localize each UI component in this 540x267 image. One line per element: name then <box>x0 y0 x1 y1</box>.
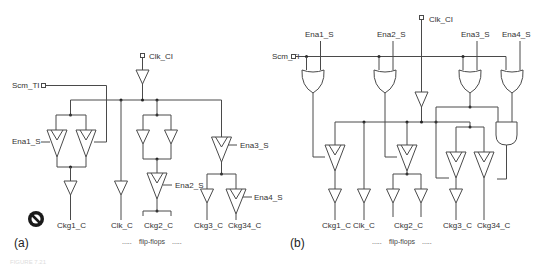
buffer-clk-c-a <box>115 181 128 195</box>
ckg2-c-label-a: Ckg2_C <box>144 221 173 230</box>
clock-gate-1-b <box>325 145 345 171</box>
ena2-s-label-b: Ena2_S <box>377 30 405 39</box>
buffer-clk-c-b <box>358 189 371 203</box>
ena2-s-label-a: Ena2_S <box>175 181 203 190</box>
clock-buffer-b <box>415 92 428 107</box>
buffer-g2a-a <box>137 130 150 144</box>
panel-label-b: (b) <box>290 236 305 250</box>
panel-b: Clk_CI Scm_TI Ena1_S Ena2_S Ena3_S Ena4_… <box>272 15 530 250</box>
footer-dots-left-b: ..... <box>372 238 382 245</box>
scm-ti-label-a: Scm_TI <box>12 81 40 90</box>
ckg34-c-label-a: Ckg34_C <box>228 221 262 230</box>
buffer-ckg3-b <box>450 189 463 203</box>
clock-buffer-a <box>136 70 149 84</box>
clk-c-label-b: Clk_C <box>353 221 375 230</box>
clock-gate-34-b <box>474 152 494 178</box>
and-gate-b <box>496 122 517 145</box>
or-gate-2-b <box>374 70 396 93</box>
clk-ci-label-a: Clk_CI <box>149 52 173 61</box>
footer-flip-flops-b: flip-flops <box>389 238 416 246</box>
ckg2-c-label-b: Ckg2_C <box>394 221 423 230</box>
or-gate-3-b <box>459 70 481 93</box>
clk-ci-label-b: Clk_CI <box>429 15 453 24</box>
buffer-ckg2b-b <box>415 189 428 203</box>
panel-label-a: (a) <box>14 236 29 250</box>
ckg1-c-label-a: Ckg1_C <box>57 221 86 230</box>
clk-ci-pin-b <box>420 16 424 20</box>
ckg34-c-label-b: Ckg34_C <box>477 221 511 230</box>
ckg1-c-label-b: Ckg1_C <box>322 221 351 230</box>
scm-ti-pin-a <box>42 84 46 88</box>
clock-gate-2-a <box>147 173 167 199</box>
clock-gate-3-a <box>212 137 232 162</box>
ena4-s-label-a: Ena4_S <box>254 193 282 202</box>
ena1-s-label-b: Ena1_S <box>305 30 333 39</box>
footer-dots-right-a: ..... <box>172 238 182 245</box>
ena3-s-label-b: Ena3_S <box>461 30 489 39</box>
buffer-ckg1-b <box>329 189 342 203</box>
clock-gate-1b <box>76 130 96 157</box>
panel-a: Clk_CI Scm_TI Ena1_S Ckg1_C <box>10 52 282 265</box>
clock-gate-4-a <box>226 189 246 214</box>
clk-ci-pin-a <box>141 54 145 58</box>
buffer-ckg1-a <box>64 181 77 195</box>
or-gate-1-b <box>302 70 324 93</box>
no-entry-icon <box>28 211 44 227</box>
footer-dots-right-b: ..... <box>422 238 432 245</box>
ena3-s-label-a: Ena3_S <box>240 141 268 150</box>
clock-gate-3-b <box>446 152 466 178</box>
buffer-ckg3-a <box>201 189 214 203</box>
ena1-s-label-a: Ena1_S <box>12 137 40 146</box>
figure-caption: FIGURE 7.21 <box>10 259 47 265</box>
scm-ti-pin-b <box>292 55 296 59</box>
footer-flip-flops-a: flip-flops <box>139 238 166 246</box>
footer-dots-left-a: ..... <box>122 238 132 245</box>
clock-gate-1a <box>47 130 67 157</box>
clock-gating-diagram: Clk_CI Scm_TI Ena1_S Ckg1_C <box>0 0 540 267</box>
or-gate-4-b <box>501 70 523 93</box>
clock-gate-2-b <box>397 145 417 171</box>
ckg3-c-label-b: Ckg3_C <box>443 221 472 230</box>
ckg3-c-label-a: Ckg3_C <box>194 221 223 230</box>
ena4-s-label-b: Ena4_S <box>502 30 530 39</box>
buffer-g2b-a <box>165 130 178 144</box>
buffer-ckg2a-b <box>387 189 400 203</box>
clk-c-label-a: Clk_C <box>111 221 133 230</box>
